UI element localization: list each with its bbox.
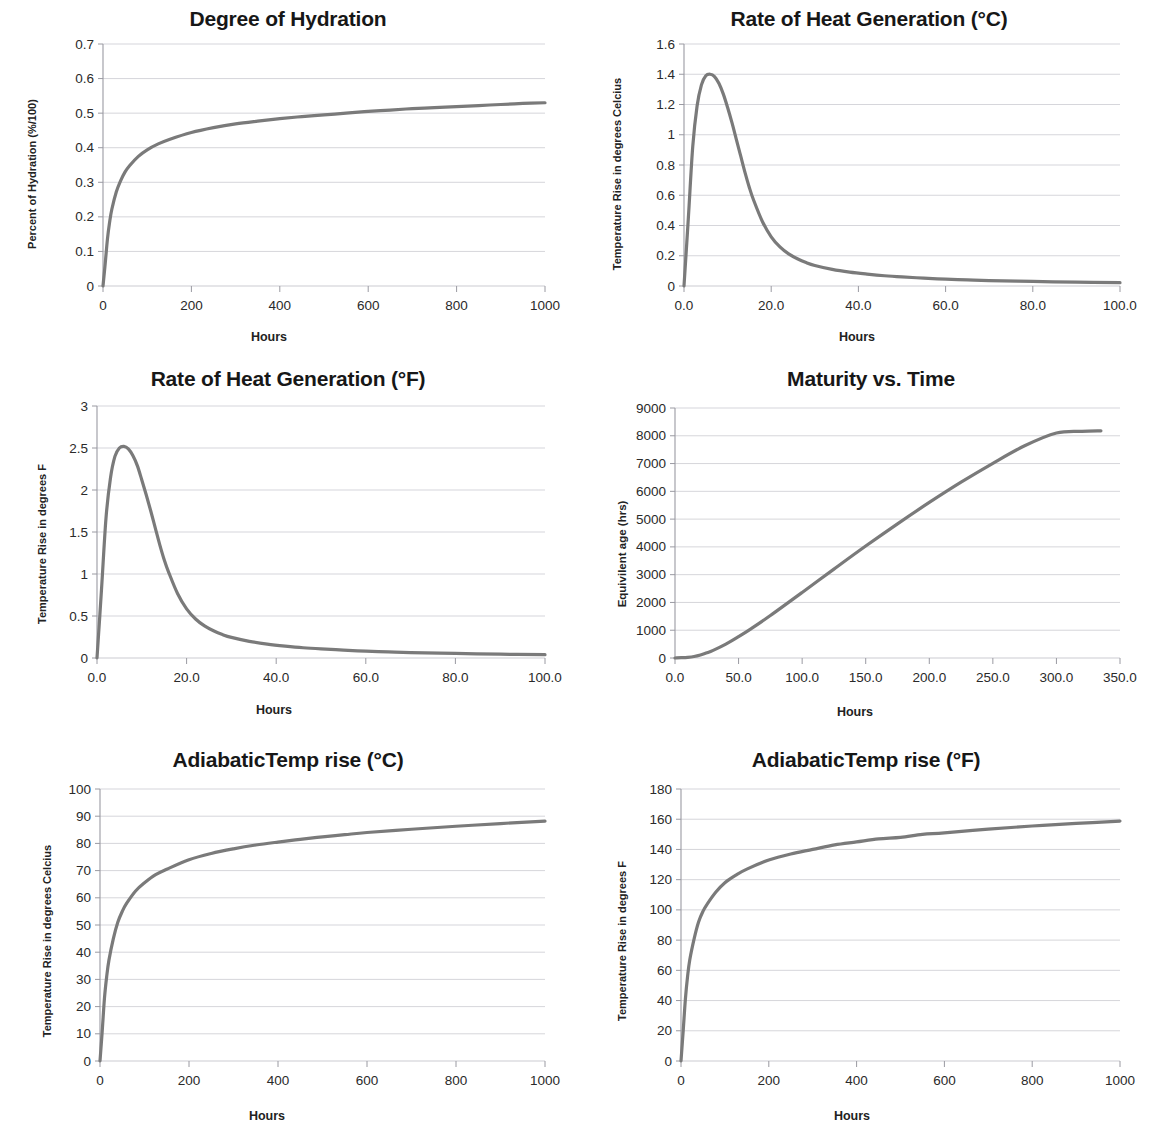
plot-area: 00.10.20.30.40.50.60.702004006008001000 — [0, 34, 576, 324]
chart-panel-degree-of-hydration: Degree of Hydration Percent of Hydration… — [0, 0, 576, 360]
svg-text:1000: 1000 — [1105, 1073, 1135, 1088]
svg-text:0.5: 0.5 — [69, 609, 88, 624]
chart-title: Rate of Heat Generation (°C) — [587, 6, 1151, 32]
svg-text:350.0: 350.0 — [1103, 670, 1137, 685]
svg-text:180: 180 — [649, 782, 672, 797]
svg-text:5000: 5000 — [636, 512, 666, 527]
svg-text:1000: 1000 — [530, 1073, 560, 1088]
chart-panel-rate-of-heat-generation-c: Rate of Heat Generation (°C) Temperature… — [575, 0, 1151, 360]
svg-text:90: 90 — [76, 809, 91, 824]
svg-text:200: 200 — [758, 1073, 781, 1088]
x-axis-label: Hours — [0, 330, 576, 344]
svg-text:100: 100 — [649, 902, 672, 917]
figure-sheet: Degree of Hydration Percent of Hydration… — [0, 0, 1151, 1147]
svg-text:600: 600 — [357, 298, 380, 313]
svg-text:7000: 7000 — [636, 456, 666, 471]
svg-text:140: 140 — [649, 842, 672, 857]
svg-text:6000: 6000 — [636, 484, 666, 499]
svg-text:600: 600 — [933, 1073, 956, 1088]
svg-text:1.2: 1.2 — [656, 97, 675, 112]
svg-text:9000: 9000 — [636, 401, 666, 416]
x-axis-label: Hours — [563, 330, 1151, 344]
x-axis-label: Hours — [0, 1109, 576, 1123]
svg-text:80: 80 — [657, 933, 672, 948]
svg-text:800: 800 — [1021, 1073, 1044, 1088]
svg-text:80.0: 80.0 — [442, 670, 468, 685]
chart-title: AdiabaticTemp rise (°F) — [581, 747, 1151, 773]
svg-text:100.0: 100.0 — [1103, 298, 1137, 313]
svg-text:8000: 8000 — [636, 428, 666, 443]
svg-text:2: 2 — [80, 483, 88, 498]
svg-text:0.1: 0.1 — [75, 244, 94, 259]
svg-text:0.3: 0.3 — [75, 175, 94, 190]
svg-text:4000: 4000 — [636, 539, 666, 554]
svg-text:0: 0 — [677, 1073, 685, 1088]
svg-text:800: 800 — [445, 298, 468, 313]
svg-text:3000: 3000 — [636, 567, 666, 582]
svg-text:10: 10 — [76, 1026, 91, 1041]
chart-panel-maturity-vs-time: Maturity vs. Time Equivilent age (hrs) 0… — [575, 360, 1151, 735]
svg-text:200: 200 — [178, 1073, 201, 1088]
svg-text:150.0: 150.0 — [849, 670, 883, 685]
svg-text:0.8: 0.8 — [656, 158, 675, 173]
svg-text:0.0: 0.0 — [666, 670, 685, 685]
svg-text:0: 0 — [96, 1073, 104, 1088]
svg-text:100.0: 100.0 — [528, 670, 562, 685]
svg-text:0.6: 0.6 — [75, 71, 94, 86]
svg-text:2.5: 2.5 — [69, 441, 88, 456]
chart-title: Maturity vs. Time — [591, 366, 1151, 392]
svg-text:1: 1 — [667, 127, 675, 142]
svg-text:0.5: 0.5 — [75, 106, 94, 121]
svg-text:40: 40 — [76, 945, 91, 960]
svg-text:60: 60 — [76, 890, 91, 905]
svg-text:30: 30 — [76, 972, 91, 987]
svg-text:0.7: 0.7 — [75, 37, 94, 52]
chart-title: AdiabaticTemp rise (°C) — [0, 747, 576, 773]
x-axis-label: Hours — [553, 1109, 1151, 1123]
chart-panel-adiabatic-temp-rise-c: AdiabaticTemp rise (°C) Temperature Rise… — [0, 735, 576, 1147]
svg-text:1.6: 1.6 — [656, 37, 675, 52]
svg-text:1000: 1000 — [530, 298, 560, 313]
chart-panel-rate-of-heat-generation-f: Rate of Heat Generation (°F) Temperature… — [0, 360, 576, 735]
svg-text:0.2: 0.2 — [75, 209, 94, 224]
svg-text:1.4: 1.4 — [656, 67, 675, 82]
plot-area: 00.511.522.530.020.040.060.080.0100.0 — [0, 396, 576, 696]
svg-text:400: 400 — [267, 1073, 290, 1088]
svg-text:0.2: 0.2 — [656, 248, 675, 263]
svg-text:0.6: 0.6 — [656, 188, 675, 203]
svg-text:100: 100 — [68, 782, 91, 797]
svg-text:0.4: 0.4 — [656, 218, 675, 233]
svg-text:100.0: 100.0 — [785, 670, 819, 685]
plot-area: 00.20.40.60.811.21.41.60.020.040.060.080… — [575, 34, 1151, 324]
svg-text:1000: 1000 — [636, 623, 666, 638]
plot-area: 0204060801001201401601800200400600800100… — [575, 779, 1151, 1099]
x-axis-label: Hours — [0, 703, 576, 717]
svg-text:0.4: 0.4 — [75, 140, 94, 155]
chart-title: Degree of Hydration — [0, 6, 576, 32]
svg-text:20.0: 20.0 — [173, 670, 199, 685]
svg-text:0: 0 — [664, 1054, 672, 1069]
svg-text:0.0: 0.0 — [675, 298, 694, 313]
svg-text:60.0: 60.0 — [353, 670, 379, 685]
svg-text:200.0: 200.0 — [912, 670, 946, 685]
svg-text:800: 800 — [445, 1073, 468, 1088]
svg-text:3: 3 — [80, 399, 88, 414]
svg-text:50: 50 — [76, 918, 91, 933]
svg-text:160: 160 — [649, 812, 672, 827]
svg-text:1.5: 1.5 — [69, 525, 88, 540]
svg-text:2000: 2000 — [636, 595, 666, 610]
svg-text:40.0: 40.0 — [263, 670, 289, 685]
svg-text:40: 40 — [657, 993, 672, 1008]
svg-text:0.0: 0.0 — [88, 670, 107, 685]
svg-text:250.0: 250.0 — [976, 670, 1010, 685]
x-axis-label: Hours — [559, 705, 1151, 719]
svg-text:1: 1 — [80, 567, 88, 582]
plot-area: 01000200030004000500060007000800090000.0… — [575, 396, 1151, 696]
svg-text:0: 0 — [86, 279, 94, 294]
svg-text:20.0: 20.0 — [758, 298, 784, 313]
svg-text:20: 20 — [657, 1023, 672, 1038]
svg-text:40.0: 40.0 — [845, 298, 871, 313]
svg-text:80: 80 — [76, 836, 91, 851]
svg-text:60: 60 — [657, 963, 672, 978]
chart-title: Rate of Heat Generation (°F) — [0, 366, 576, 392]
